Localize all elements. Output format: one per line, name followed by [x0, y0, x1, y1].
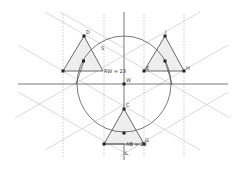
label-I: I — [165, 29, 166, 35]
label-H: H — [186, 65, 190, 71]
triangle-left — [63, 36, 103, 71]
label-W: W — [126, 77, 131, 83]
label-L: L — [125, 150, 128, 156]
label-S: S — [101, 45, 104, 51]
geometry-canvas: D S I H E W C G L RW = 23 AB = 20 — [0, 0, 245, 172]
measure-rw: RW = 23 — [104, 68, 126, 74]
measure-ab: AB = 20 — [126, 141, 147, 147]
label-D: D — [86, 29, 90, 35]
label-E: E — [146, 65, 149, 71]
triangle-right — [144, 36, 184, 71]
label-C: C — [126, 102, 130, 108]
